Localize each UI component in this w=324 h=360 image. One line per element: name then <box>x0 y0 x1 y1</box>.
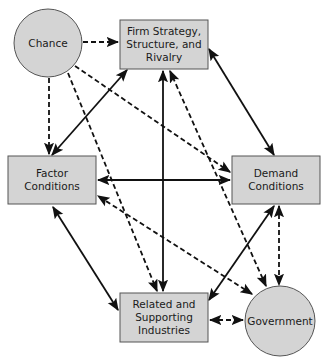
node-related: Related and Supporting Industries <box>120 293 208 342</box>
porter-diamond-diagram: Chance Firm Strategy, Structure, and Riv… <box>0 0 324 360</box>
node-related-label-line3: Industries <box>138 324 190 336</box>
edge-firm-demand <box>209 49 274 155</box>
edge-demand-related <box>209 206 274 300</box>
node-chance-label: Chance <box>28 37 67 49</box>
node-related-label-line1: Related and <box>133 298 196 310</box>
edge-factor-related <box>53 207 118 310</box>
node-demand-label-line2: Conditions <box>248 180 304 192</box>
node-government: Government <box>245 286 315 356</box>
node-government-label: Government <box>247 315 312 327</box>
node-firm: Firm Strategy, Structure, and Rivalry <box>120 20 208 69</box>
node-firm-label-line3: Rivalry <box>146 51 182 63</box>
edge-chance-demand <box>75 66 230 172</box>
node-chance: Chance <box>14 9 82 77</box>
edge-government-factor <box>98 196 252 294</box>
node-factor: Factor Conditions <box>8 156 96 204</box>
node-firm-label-line1: Firm Strategy, <box>127 25 201 37</box>
node-demand: Demand Conditions <box>232 156 320 204</box>
node-factor-label-line1: Factor <box>36 167 69 179</box>
node-demand-label-line1: Demand <box>254 167 299 179</box>
edge-firm-factor <box>52 70 127 155</box>
node-firm-label-line2: Structure, and <box>126 38 201 50</box>
node-factor-label-line2: Conditions <box>24 180 80 192</box>
node-related-label-line2: Supporting <box>135 311 193 323</box>
